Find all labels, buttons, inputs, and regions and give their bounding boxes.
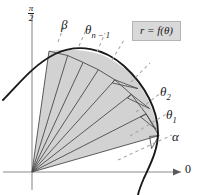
label-theta-n-minus-1: θn − 1: [85, 23, 110, 39]
horizontal-axis-label: 0: [185, 163, 191, 175]
label-alpha: α: [172, 130, 179, 143]
label-theta-2-subscript: 2: [166, 92, 170, 102]
label-beta: β: [61, 18, 67, 31]
half-pi-fraction: π2: [28, 4, 35, 24]
equation-legend-box: r = f(θ): [132, 21, 181, 41]
horizontal-axis-arrowhead: [173, 169, 181, 176]
sector-fan-group: [32, 50, 159, 172]
vertical-axis-label: π2: [21, 4, 41, 24]
half-pi-denominator: 2: [28, 13, 35, 23]
half-pi-numerator: π: [28, 4, 35, 13]
label-theta-1: θ1: [166, 108, 177, 124]
label-theta-2: θ2: [160, 85, 171, 101]
label-theta-1-subscript: 1: [172, 115, 176, 125]
polar-area-figure: β θn − 1 θ2 θ1 α 0 π2 r = f(θ): [0, 0, 197, 195]
label-theta-n-minus-1-subscript: n − 1: [91, 30, 110, 40]
dashed-ray-4: [112, 40, 124, 60]
